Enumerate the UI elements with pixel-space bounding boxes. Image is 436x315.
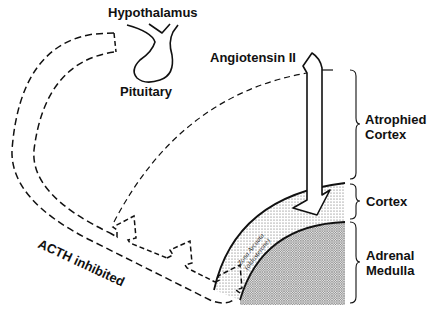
label-atrophied-cortex-line1: Atrophied bbox=[365, 112, 426, 127]
pituitary-gland-shape bbox=[127, 24, 178, 82]
acth-pathway-inner bbox=[34, 52, 114, 233]
acth-pathway-outer bbox=[12, 33, 233, 303]
label-pituitary: Pituitary bbox=[120, 84, 172, 99]
label-angiotensin-ii: Angiotensin II bbox=[210, 50, 296, 65]
label-adrenal-medulla-line2: Medulla bbox=[366, 263, 414, 278]
label-adrenal-medulla-line1: Adrenal bbox=[366, 248, 414, 263]
bracket-cortex bbox=[350, 184, 360, 219]
acth-arrowhead-2 bbox=[167, 241, 215, 282]
acth-pathway-cap bbox=[114, 33, 116, 52]
acth-arrowhead-1 bbox=[110, 216, 167, 258]
bracket-adrenal-medulla bbox=[350, 222, 360, 303]
label-hypothalamus: Hypothalamus bbox=[108, 5, 198, 20]
bracket-atrophied-cortex bbox=[350, 70, 360, 179]
label-atrophied-cortex-line2: Cortex bbox=[365, 127, 406, 142]
diagram-canvas: Hypothalamus Pituitary Angiotensin II At… bbox=[0, 0, 436, 315]
label-cortex: Cortex bbox=[366, 194, 407, 209]
